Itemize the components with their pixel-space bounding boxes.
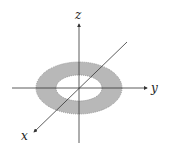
x-axis-label: x (21, 129, 28, 143)
z-axis-label: z (74, 8, 82, 22)
y-axis-label: y (150, 81, 158, 95)
annulus-diagram: z y x (0, 0, 169, 152)
